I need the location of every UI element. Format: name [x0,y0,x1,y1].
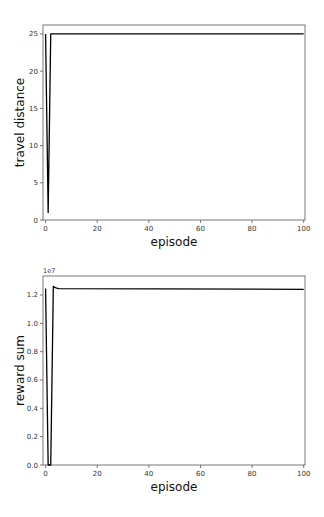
figure: 0204060801000510152025episodetravel dist… [0,0,324,517]
y-tick-label: 0.8 [27,348,38,356]
y-tick-label: 0 [34,217,38,225]
y-tick-label: 25 [29,30,38,38]
x-tick-label: 20 [93,470,102,478]
x-tick-label: 0 [43,225,47,233]
x-tick-label: 80 [248,225,257,233]
y-tick-label: 20 [29,68,38,76]
y-tick-label: 10 [29,142,38,150]
y-tick-label: 0.2 [27,433,38,441]
y-axis-label: travel distance [13,78,27,167]
x-axis-label: episode [151,235,198,249]
y-tick-label: 1.2 [27,291,38,299]
y-tick-label: 0.4 [27,405,39,413]
y-tick-label: 0.0 [27,462,38,470]
y-tick-label: 0.6 [27,376,39,384]
y-tick-label: 1.0 [27,320,38,328]
x-tick-label: 20 [93,225,102,233]
x-axis-label: episode [151,480,198,494]
x-tick-label: 60 [196,225,205,233]
x-tick-label: 100 [297,470,310,478]
y-axis-label: reward sum [13,335,27,406]
x-tick-label: 80 [248,470,257,478]
x-tick-label: 60 [196,470,205,478]
plot-frame [43,276,305,465]
plot-frame [43,25,305,220]
y-offset-label: 1e7 [43,267,55,275]
chart-1: 0204060801000.00.20.40.60.81.01.21e7epis… [13,267,310,494]
x-tick-label: 40 [144,470,153,478]
x-tick-label: 0 [43,470,47,478]
y-tick-label: 15 [29,105,38,113]
chart-0: 0204060801000510152025episodetravel dist… [13,25,310,249]
y-tick-label: 5 [34,179,38,187]
x-tick-label: 40 [144,225,153,233]
x-tick-label: 100 [297,225,310,233]
